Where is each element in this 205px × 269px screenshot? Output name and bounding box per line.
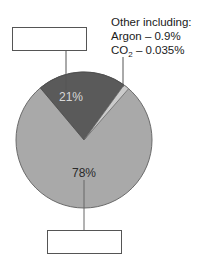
dark-pct-label: 21% (59, 90, 83, 104)
light-pct-label: 78% (72, 166, 96, 180)
other-heading: Other including: (111, 15, 192, 29)
other-annotation: Other including: Argon – 0.9% CO2 – 0.03… (111, 15, 192, 62)
co2-line: CO2 – 0.035% (111, 43, 192, 62)
argon-line: Argon – 0.9% (111, 29, 192, 43)
co2-suffix: – 0.035% (133, 44, 185, 56)
label-box-bottom (48, 231, 122, 254)
label-box-top (13, 28, 87, 51)
co2-prefix: CO (111, 44, 128, 56)
